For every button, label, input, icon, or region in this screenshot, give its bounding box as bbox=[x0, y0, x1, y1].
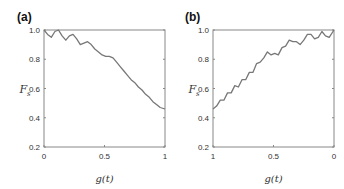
x-tick-label: 0 bbox=[42, 152, 47, 161]
x-tick-label: 1 bbox=[211, 152, 216, 161]
y-tick-label: 0.8 bbox=[29, 55, 41, 64]
panel-label: (b) bbox=[185, 10, 200, 24]
y-tick-label: 0.2 bbox=[198, 143, 210, 152]
panel-a: 0.20.40.60.81.000.51(a)g(t)Fs bbox=[17, 10, 168, 184]
y-tick-label: 1.0 bbox=[198, 26, 210, 35]
plot-frame bbox=[213, 30, 334, 147]
data-line bbox=[213, 30, 334, 109]
y-tick-label: 0.8 bbox=[198, 55, 210, 64]
x-axis-label: g(t) bbox=[264, 173, 282, 184]
x-axis-label: g(t) bbox=[95, 173, 113, 184]
x-tick-label: 0 bbox=[332, 152, 337, 161]
data-line bbox=[44, 30, 165, 109]
y-tick-label: 1.0 bbox=[29, 26, 41, 35]
panel-b: 0.20.40.60.81.010.50(b)g(t)Fs bbox=[185, 10, 337, 184]
y-tick-label: 0.4 bbox=[198, 114, 210, 123]
y-tick-label: 0.6 bbox=[198, 85, 210, 94]
figure: 0.20.40.60.81.000.51(a)g(t)Fs 0.20.40.60… bbox=[0, 0, 344, 189]
plot-frame bbox=[44, 30, 165, 147]
y-tick-label: 0.4 bbox=[29, 114, 41, 123]
y-tick-label: 0.2 bbox=[29, 143, 41, 152]
panel-label: (a) bbox=[17, 10, 32, 24]
y-tick-label: 0.6 bbox=[29, 85, 41, 94]
x-tick-label: 1 bbox=[163, 152, 168, 161]
x-tick-label: 0.5 bbox=[99, 152, 111, 161]
x-tick-label: 0.5 bbox=[268, 152, 280, 161]
